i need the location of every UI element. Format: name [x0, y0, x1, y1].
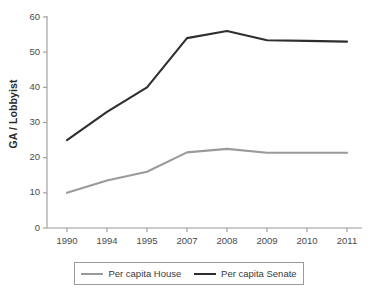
legend-label-senate: Per capita Senate: [221, 268, 297, 279]
y-axis-tick-label: 20: [18, 151, 40, 162]
chart-container: GA / Lobbyist 0102030405060 199019941995…: [0, 0, 375, 295]
y-axis-tick-label: 50: [18, 46, 40, 57]
series-line-house: [67, 149, 347, 193]
x-axis-tick-label: 2011: [327, 235, 367, 246]
legend-swatch-house: [81, 273, 103, 275]
x-axis-tick-label: 2008: [207, 235, 247, 246]
legend-item-house[interactable]: Per capita House: [81, 268, 181, 279]
y-axis-tick-label: 60: [18, 11, 40, 22]
legend-item-senate[interactable]: Per capita Senate: [194, 268, 297, 279]
series-line-senate: [67, 31, 347, 140]
legend-label-house: Per capita House: [108, 268, 181, 279]
x-axis-tick-label: 1990: [47, 235, 87, 246]
legend-swatch-senate: [194, 273, 216, 275]
y-axis-tick-label: 30: [18, 116, 40, 127]
x-axis-tick-label: 1994: [87, 235, 127, 246]
y-axis-tick-label: 40: [18, 81, 40, 92]
chart-legend: Per capita House Per capita Senate: [74, 262, 304, 285]
x-axis-tick-label: 1995: [127, 235, 167, 246]
y-axis-tick-label: 0: [18, 222, 40, 233]
x-axis-tick-label: 2007: [167, 235, 207, 246]
line-chart-plot: [0, 0, 375, 295]
x-axis-tick-label: 2010: [287, 235, 327, 246]
y-axis-tick-label: 10: [18, 186, 40, 197]
x-axis-tick-label: 2009: [247, 235, 287, 246]
